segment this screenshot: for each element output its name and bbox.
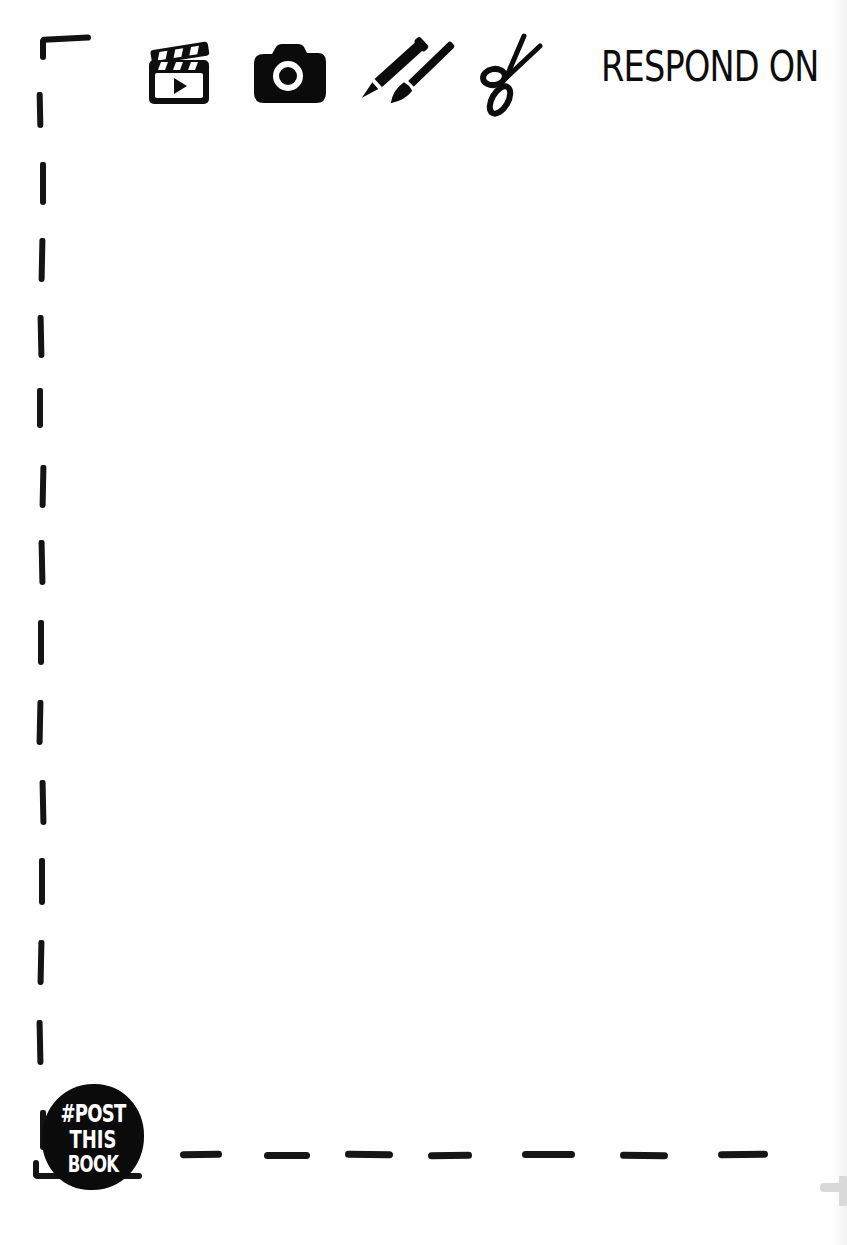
frame-left-dash [38,315,45,358]
frame-left-dash [40,780,47,825]
badge-line-book: BOOK [56,1153,129,1176]
frame-left-dash [39,858,45,905]
video-clapperboard-icon [147,40,211,106]
scissors-icon [478,32,544,118]
frame-left-dash [39,540,46,585]
frame-bottom-dash [718,1151,768,1159]
frame-left-dash [39,238,46,282]
frame-left-dash [37,388,43,428]
frame-left-dash [38,940,45,985]
journal-page: RESPOND ON #POST THIS BOOK [0,0,847,1245]
frame-corner-top [41,34,91,43]
camera-icon [252,43,328,105]
frame-left-dash [40,465,47,508]
pen-and-brush-icon [359,30,455,116]
respond-on-heading: RESPOND ON [601,45,819,88]
bleed-through-mark-vertical [839,1176,847,1206]
post-this-book-badge: #POST THIS BOOK [42,1084,144,1190]
frame-left-dash [37,92,44,128]
frame-bottom-dash [620,1152,668,1160]
frame-bottom-dash [264,1152,310,1159]
badge-line-this: THIS [56,1127,129,1152]
frame-bottom-dash [522,1151,575,1158]
frame-left-dash [40,162,46,205]
frame-left-dash [37,1020,44,1065]
frame-corner-left [40,38,46,60]
frame-left-dash [38,620,44,665]
badge-line-post: #POST [56,1101,129,1126]
frame-bottom-dash [345,1151,393,1159]
frame-bottom-dash [180,1151,222,1159]
frame-bottom-dash [428,1152,472,1160]
page-edge-shadow [833,0,847,1245]
frame-left-dash [37,700,44,745]
